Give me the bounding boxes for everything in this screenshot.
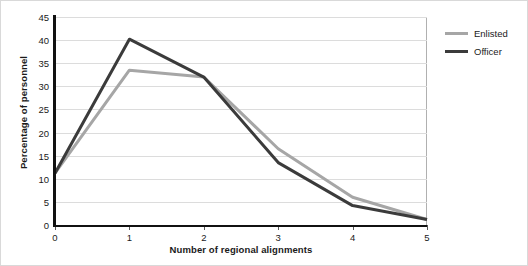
y-tick-label: 45 bbox=[38, 12, 49, 23]
y-tick-label: 40 bbox=[38, 35, 49, 46]
series-line-enlisted bbox=[55, 70, 427, 219]
legend-item-officer[interactable]: Officer bbox=[445, 46, 508, 57]
x-tick-label: 4 bbox=[350, 232, 355, 243]
x-axis-title: Number of regional alignments bbox=[55, 244, 427, 255]
series-lines bbox=[55, 17, 427, 225]
x-tick-label: 1 bbox=[127, 232, 132, 243]
plot-area: 051015202530354045 012345 bbox=[55, 17, 427, 225]
x-tick-label: 3 bbox=[276, 232, 281, 243]
x-tick-label: 0 bbox=[52, 232, 57, 243]
legend-swatch-icon bbox=[445, 32, 468, 35]
y-axis-title: Percentage of personnel bbox=[18, 28, 29, 198]
y-tick-label: 20 bbox=[38, 127, 49, 138]
x-tick-label: 5 bbox=[424, 232, 429, 243]
series-line-officer bbox=[55, 39, 427, 219]
y-tick-label: 35 bbox=[38, 58, 49, 69]
y-tick-label: 5 bbox=[44, 196, 49, 207]
y-tick-label: 0 bbox=[44, 220, 49, 231]
legend-label: Officer bbox=[474, 46, 502, 57]
y-tick-label: 15 bbox=[38, 150, 49, 161]
x-tick-label: 2 bbox=[201, 232, 206, 243]
chart-legend: EnlistedOfficer bbox=[445, 28, 508, 57]
y-tick-label: 25 bbox=[38, 104, 49, 115]
y-axis-line bbox=[53, 15, 56, 227]
y-tick-label: 30 bbox=[38, 81, 49, 92]
x-axis-line bbox=[53, 225, 427, 228]
legend-label: Enlisted bbox=[474, 28, 508, 39]
x-tick-mark bbox=[427, 225, 428, 230]
chart-screenshot: Percentage of personnel 0510152025303540… bbox=[0, 0, 528, 266]
y-tick-label: 10 bbox=[38, 173, 49, 184]
legend-item-enlisted[interactable]: Enlisted bbox=[445, 28, 508, 39]
legend-swatch-icon bbox=[445, 50, 468, 53]
